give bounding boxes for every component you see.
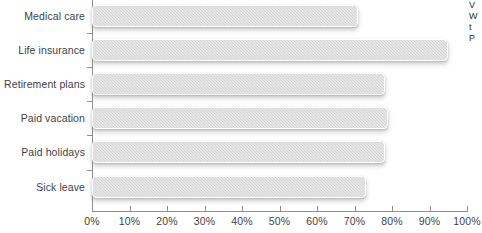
bar-life-insurance [92,39,448,61]
value-axis-label: 20% [156,215,177,227]
category-label-paid-vacation: Paid vacation [21,107,92,129]
bar-chart: Medical care Life insurance Retirement p… [0,0,482,233]
value-axis-label: 60% [306,215,327,227]
edge-annotation-line: W [469,11,482,22]
value-axis-label: 90% [419,215,440,227]
category-label-paid-holidays: Paid holidays [21,141,92,163]
bar-fill [92,39,448,61]
category-label-sick-leave: Sick leave [36,176,92,198]
value-axis-tick [242,206,243,212]
value-axis-tick [167,206,168,212]
value-axis-tick [130,206,131,212]
value-axis-tick [430,206,431,212]
bar-fill [92,107,388,129]
value-axis-tick [205,206,206,212]
value-axis-label: 50% [269,215,290,227]
edge-annotation: V W t P [469,0,482,44]
value-axis-tick [392,206,393,212]
value-axis-tick [317,206,318,212]
bar-paid-holidays [92,141,385,163]
bar-retirement-plans [92,73,385,95]
value-axis-label: 0% [84,215,99,227]
bar-fill [92,176,366,198]
category-axis-labels: Medical care Life insurance Retirement p… [0,0,92,205]
value-axis-label: 40% [231,215,252,227]
value-axis-tick [355,206,356,212]
category-label-retirement-plans: Retirement plans [4,73,92,95]
plot-area [92,0,482,205]
value-axis-label: 70% [344,215,365,227]
bar-fill [92,141,385,163]
value-axis-label: 80% [381,215,402,227]
bar-sick-leave [92,176,366,198]
category-label-life-insurance: Life insurance [18,39,92,61]
category-label-medical-care: Medical care [24,5,92,27]
value-axis-tick [467,206,468,212]
value-axis-label: 10% [119,215,140,227]
edge-annotation-line: t [469,22,482,33]
value-axis-label: 100% [453,215,480,227]
edge-annotation-line: P [469,33,482,44]
edge-annotation-line: V [469,0,482,11]
value-axis-tick [280,206,281,212]
value-axis-tick [92,206,93,212]
value-axis-label: 30% [194,215,215,227]
bar-fill [92,73,385,95]
bar-fill [92,5,358,27]
bar-medical-care [92,5,358,27]
bar-paid-vacation [92,107,388,129]
